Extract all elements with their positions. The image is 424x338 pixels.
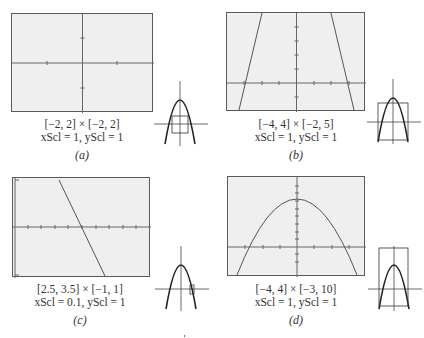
window-range-c: [2.5, 3.5] × [−1, 1] — [20, 283, 140, 295]
calculator-screen-b — [226, 12, 365, 111]
overview-graph-d — [366, 243, 424, 313]
calculator-screen-d — [227, 176, 365, 276]
window-range-b: [−4, 4] × [−2, 5] — [236, 118, 356, 130]
scale-d: xScl = 1, yScl = 1 — [236, 296, 356, 308]
window-range-d: [−4, 4] × [−3, 10] — [236, 283, 356, 295]
graph-a — [12, 14, 154, 113]
stray-mark — [184, 335, 185, 337]
label-d: (d) — [276, 313, 316, 328]
graph-c — [13, 178, 151, 278]
overview-graph-b — [365, 76, 423, 146]
overview-graph-a — [152, 78, 210, 148]
label-c: (c) — [60, 313, 100, 328]
scale-a: xScl = 1, yScl = 1 — [22, 131, 142, 143]
overview-graph-c — [153, 243, 211, 313]
graph-d — [228, 177, 366, 277]
scale-c: xScl = 0.1, yScl = 1 — [20, 296, 140, 308]
window-range-a: [−2, 2] × [−2, 2] — [22, 118, 142, 130]
calculator-screen-a — [11, 13, 153, 112]
label-a: (a) — [62, 148, 102, 163]
calculator-screen-c — [12, 177, 150, 277]
scale-b: xScl = 1, yScl = 1 — [236, 131, 356, 143]
graph-b — [227, 13, 366, 112]
label-b: (b) — [276, 148, 316, 163]
